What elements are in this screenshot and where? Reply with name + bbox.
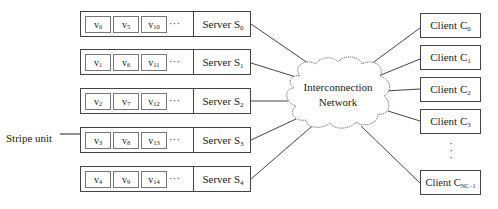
stripe-cell-highlighted: v3 xyxy=(85,132,111,149)
server-label: Server S4 xyxy=(195,167,251,191)
ellipsis: ··· xyxy=(169,171,181,186)
server-label: Server S1 xyxy=(195,50,251,74)
server-row-3: v3 v8 v13 ··· Server S3 xyxy=(80,127,251,153)
client-ellipsis: ··· xyxy=(448,140,454,161)
client-box-0: Client C0 xyxy=(420,13,481,38)
stripe-cell: v2 xyxy=(85,93,111,110)
network-label-line1: Interconnection xyxy=(290,80,386,95)
stripe-cell: v9 xyxy=(113,171,139,188)
server-row-1: v1 v6 v11 ··· Server S1 xyxy=(80,49,251,75)
stripe-cell: v11 xyxy=(141,54,167,71)
stripe-cell: v14 xyxy=(141,171,167,188)
stripe-unit-label: Stripe unit xyxy=(6,132,52,145)
stripe-cell: v12 xyxy=(141,93,167,110)
ellipsis: ··· xyxy=(169,54,181,69)
network-label-line2: Network xyxy=(290,95,386,110)
server-label: Server S0 xyxy=(195,12,251,36)
stripe-cell: v10 xyxy=(141,16,167,33)
client-box-3: Client C3 xyxy=(420,109,481,134)
server-row-4: v4 v9 v14 ··· Server S4 xyxy=(80,166,251,192)
server-row-2: v2 v7 v12 ··· Server S2 xyxy=(80,88,251,114)
server-label: Server S2 xyxy=(195,89,251,113)
ellipsis: ··· xyxy=(169,93,181,108)
stripe-cell: v6 xyxy=(113,54,139,71)
ellipsis: ··· xyxy=(169,16,181,31)
storage-striping-diagram: v0 v5 v10 ··· Server S0 v1 v6 v11 ··· Se… xyxy=(0,0,498,209)
client-box-last: Client CNC−1 xyxy=(420,170,481,195)
network-label: Interconnection Network xyxy=(290,80,386,110)
server-label: Server S3 xyxy=(195,128,251,152)
client-box-2: Client C2 xyxy=(420,77,481,102)
stripe-cell: v0 xyxy=(85,16,111,33)
stripe-cell: v5 xyxy=(113,16,139,33)
client-box-1: Client C1 xyxy=(420,45,481,70)
ellipsis: ··· xyxy=(169,132,181,147)
stripe-cell: v4 xyxy=(85,171,111,188)
server-row-0: v0 v5 v10 ··· Server S0 xyxy=(80,11,251,37)
stripe-cell: v1 xyxy=(85,54,111,71)
stripe-cell: v13 xyxy=(141,132,167,149)
stripe-cell: v8 xyxy=(113,132,139,149)
stripe-cell: v7 xyxy=(113,93,139,110)
